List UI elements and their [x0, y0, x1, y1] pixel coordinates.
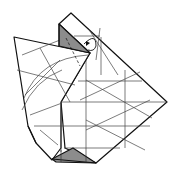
paper-body	[14, 13, 167, 163]
origami-diagram	[0, 0, 181, 179]
origami-model-drawing	[0, 0, 181, 179]
